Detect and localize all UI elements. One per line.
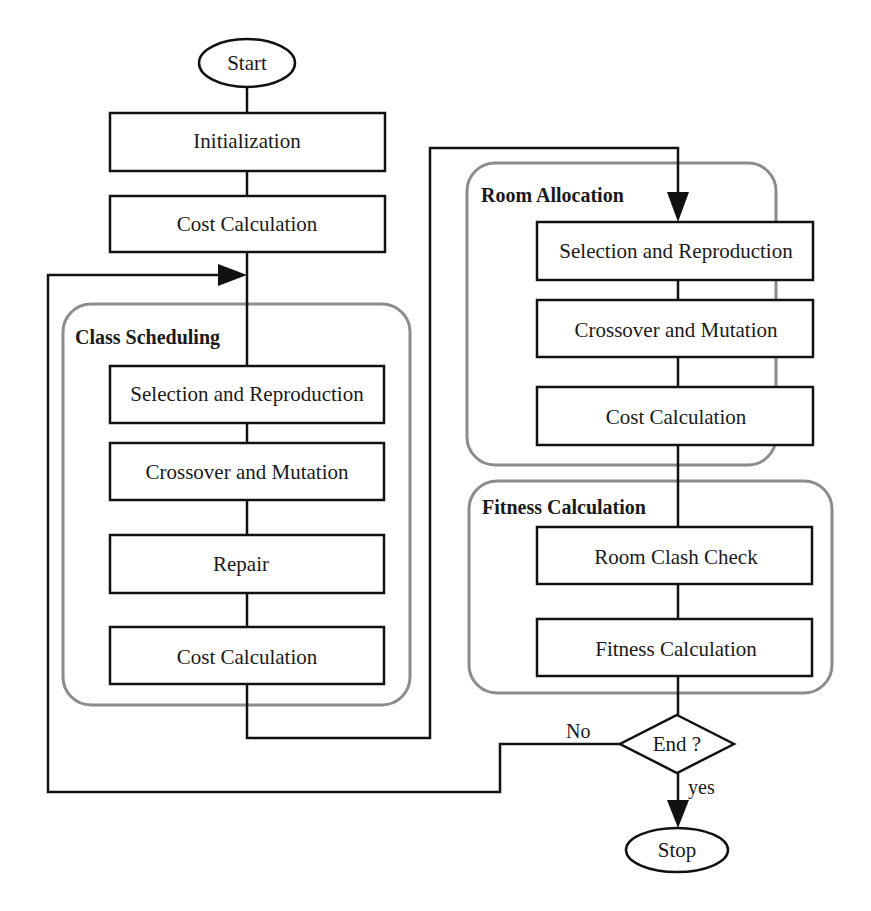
cs-step-crossover-label: Crossover and Mutation xyxy=(146,460,349,484)
group-class-scheduling-title: Class Scheduling xyxy=(75,326,220,349)
stop-label: Stop xyxy=(658,838,697,862)
start-label: Start xyxy=(227,51,267,75)
arrow-room-allocation-head xyxy=(667,192,689,222)
arrow-loop-head xyxy=(218,264,247,286)
cs-step-selection-label: Selection and Reproduction xyxy=(130,382,364,406)
cs-step-repair-label: Repair xyxy=(213,552,269,576)
ra-step-cost-label: Cost Calculation xyxy=(606,405,747,429)
ra-step-crossover-label: Crossover and Mutation xyxy=(575,318,778,342)
fc-step-room-clash-label: Room Clash Check xyxy=(594,545,758,569)
decision-end-label: End ? xyxy=(653,732,701,756)
group-room-allocation-title: Room Allocation xyxy=(481,184,624,206)
ra-step-selection-label: Selection and Reproduction xyxy=(559,239,793,263)
edge-label-yes: yes xyxy=(688,776,715,799)
fc-step-fitness-label: Fitness Calculation xyxy=(595,637,757,661)
flowchart-canvas: Start Stop Initialization Cost Calculati… xyxy=(0,0,871,911)
arrow-stop-head xyxy=(667,800,689,828)
cs-step-cost-label: Cost Calculation xyxy=(177,645,318,669)
group-fitness-calculation-title: Fitness Calculation xyxy=(482,496,646,518)
edge-label-no: No xyxy=(566,720,590,742)
step-cost-calculation-label: Cost Calculation xyxy=(177,212,318,236)
step-initialization-label: Initialization xyxy=(193,129,301,153)
